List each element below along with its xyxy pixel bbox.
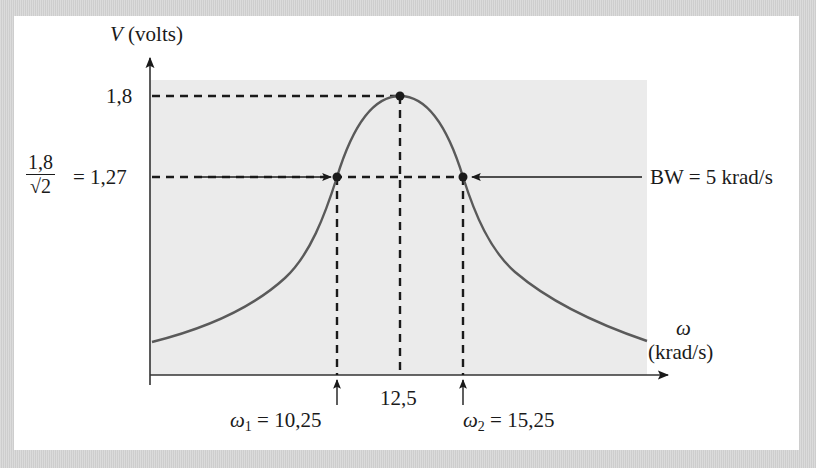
y-axis-label: V (volts) xyxy=(110,24,183,45)
w1-subscript: 1 xyxy=(245,419,252,434)
w2-label: ω2 = 15,25 xyxy=(463,410,554,434)
y-tick-peak: 1,8 xyxy=(106,86,132,107)
y-axis-unit: (volts) xyxy=(123,22,183,46)
x-axis-symbol: ω xyxy=(676,318,691,339)
point-peak xyxy=(396,92,405,101)
w1-value: = 10,25 xyxy=(252,408,322,432)
w1-symbol: ω xyxy=(230,408,245,432)
halfpower-fraction: 1,8 √2 xyxy=(26,152,55,196)
fraction-denominator: √2 xyxy=(26,175,55,196)
y-axis-symbol: V xyxy=(110,22,123,46)
halfpower-value: = 1,27 xyxy=(73,167,127,188)
w2-symbol: ω xyxy=(463,408,478,432)
plot-area xyxy=(150,80,647,375)
w2-subscript: 2 xyxy=(478,419,485,434)
fraction-numerator: 1,8 xyxy=(26,152,55,175)
x-tick-center: 12,5 xyxy=(380,388,417,409)
point-w2 xyxy=(459,173,468,182)
w2-value: = 15,25 xyxy=(485,408,555,432)
x-axis-unit: (krad/s) xyxy=(648,342,713,363)
point-w1 xyxy=(333,173,342,182)
w1-label: ω1 = 10,25 xyxy=(230,410,321,434)
bandwidth-label: BW = 5 krad/s xyxy=(650,167,773,188)
